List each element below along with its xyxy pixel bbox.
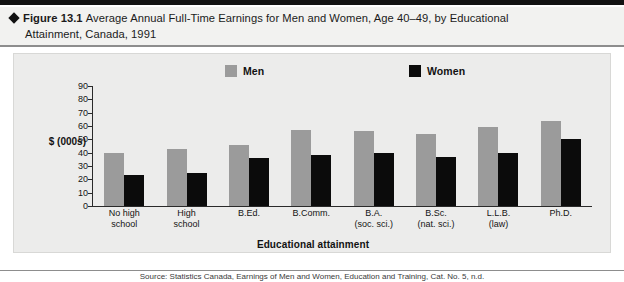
legend-swatch-women [409,65,421,77]
legend-item-women: Women [409,65,465,77]
y-tick-label: 90 [64,82,88,91]
bar-group [530,86,592,206]
chart-legend: Men Women [14,65,612,81]
bar-group [218,86,280,206]
x-category-label-line: B.Comm. [280,208,342,219]
figure-number-label: Figure 13.1 [23,12,83,24]
y-tick-label: 0 [64,202,88,211]
plot-area: 0102030405060708090 [92,86,592,206]
y-tick-mark [88,179,92,180]
x-category-label-line: (nat. sci.) [405,219,467,230]
bar-women [311,155,331,206]
x-category-label-line: school [93,219,155,230]
x-category-label-line: L.L.B. [467,208,529,219]
legend-label-women: Women [427,65,465,77]
bar-men [229,145,249,206]
x-category-label: B.Ed. [218,208,280,236]
x-category-label-line: Ph.D. [530,208,592,219]
x-category-label: B.Sc.(nat. sci.) [405,208,467,236]
x-category-label-line: High [155,208,217,219]
bar-women [374,153,394,206]
legend-label-men: Men [243,65,264,77]
figure-title-block: Figure 13.1 Average Annual Full-Time Ear… [0,7,624,45]
figure-title-line-2: Attainment, Canada, 1991 [10,27,606,43]
x-axis-title: Educational attainment [14,239,612,250]
diamond-bullet-icon [8,12,19,23]
y-tick-mark [88,153,92,154]
top-divider-bar [0,0,624,5]
y-tick-mark [88,139,92,140]
y-tick-mark [88,166,92,167]
x-axis-line [92,206,592,207]
legend-item-men: Men [225,65,264,77]
y-tick-label: 30 [64,162,88,171]
chart-panel: Men Women $ (000s) 0102030405060708090 N… [13,53,611,253]
bar-groups [93,86,592,206]
y-tick-label: 50 [64,135,88,144]
legend-swatch-men [225,65,237,77]
bar-women [436,157,456,206]
bar-men [291,130,311,206]
bar-women [561,139,581,206]
x-category-label: L.L.B.(law) [467,208,529,236]
bar-men [167,149,187,206]
bar-men [354,131,374,206]
bar-men [104,153,124,206]
x-category-label: Highschool [155,208,217,236]
x-category-label: B.A.(soc. sci.) [343,208,405,236]
bar-group [467,86,529,206]
bar-men [478,127,498,206]
bar-men [416,134,436,206]
x-category-label-line: B.Sc. [405,208,467,219]
y-tick-label: 70 [64,108,88,117]
title-underline-rule [0,45,624,47]
y-axis-tick-labels: 0102030405060708090 [64,86,88,206]
bar-men [541,121,561,206]
y-tick-mark [88,99,92,100]
figure-title-line-1-text: Average Annual Full-Time Earnings for Me… [86,12,509,24]
x-category-label: Ph.D. [530,208,592,236]
x-axis-category-labels: No highschoolHighschoolB.Ed.B.Comm.B.A.(… [93,208,592,236]
bar-group [405,86,467,206]
bar-group [280,86,342,206]
x-category-label-line: No high [93,208,155,219]
y-tick-mark [88,113,92,114]
x-category-label-line: (law) [467,219,529,230]
x-category-label-line: (soc. sci.) [343,219,405,230]
bar-group [93,86,155,206]
y-tick-label: 40 [64,148,88,157]
x-category-label-line: school [155,219,217,230]
bar-women [124,175,144,206]
y-tick-mark [88,86,92,87]
figure-page: Figure 13.1 Average Annual Full-Time Ear… [0,0,624,282]
source-caption: Source: Statistics Canada, Earnings of M… [0,272,624,282]
bar-group [155,86,217,206]
y-tick-label: 20 [64,175,88,184]
figure-title-line-1: Figure 13.1 Average Annual Full-Time Ear… [10,11,606,27]
x-category-label: B.Comm. [280,208,342,236]
bar-group [343,86,405,206]
bar-women [249,158,269,206]
y-tick-mark [88,126,92,127]
x-category-label: No highschool [93,208,155,236]
bar-women [498,153,518,206]
x-category-label-line: B.Ed. [218,208,280,219]
x-category-label-line: B.A. [343,208,405,219]
y-tick-label: 60 [64,122,88,131]
y-tick-mark [88,193,92,194]
y-tick-label: 80 [64,95,88,104]
bar-women [187,173,207,206]
bottom-divider-rule [0,270,624,271]
y-tick-label: 10 [64,188,88,197]
